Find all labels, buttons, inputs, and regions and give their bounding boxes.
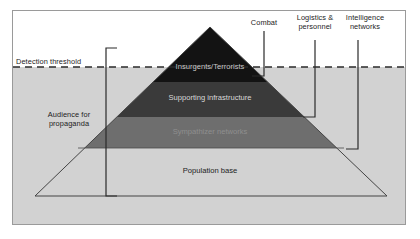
band-label-supporting-infrastructure: Supporting infrastructure: [110, 93, 310, 102]
intelligence-networks-label: Intelligence networks: [337, 13, 393, 31]
detection-threshold-label: Detection threshold: [16, 57, 81, 66]
band-label-population-base: Population base: [110, 166, 310, 175]
band-label-sympathizer-networks: Sympathizer networks: [110, 127, 310, 136]
logistics-personnel-label: Logistics & personnel: [289, 13, 341, 31]
audience-for-propaganda-label: Audience for propaganda: [36, 110, 102, 128]
figure-container: Detection threshold Audience for propaga…: [0, 0, 420, 239]
band-label-insurgents: Insurgents/Terrorists: [110, 62, 310, 71]
combat-label: Combat: [244, 18, 284, 27]
